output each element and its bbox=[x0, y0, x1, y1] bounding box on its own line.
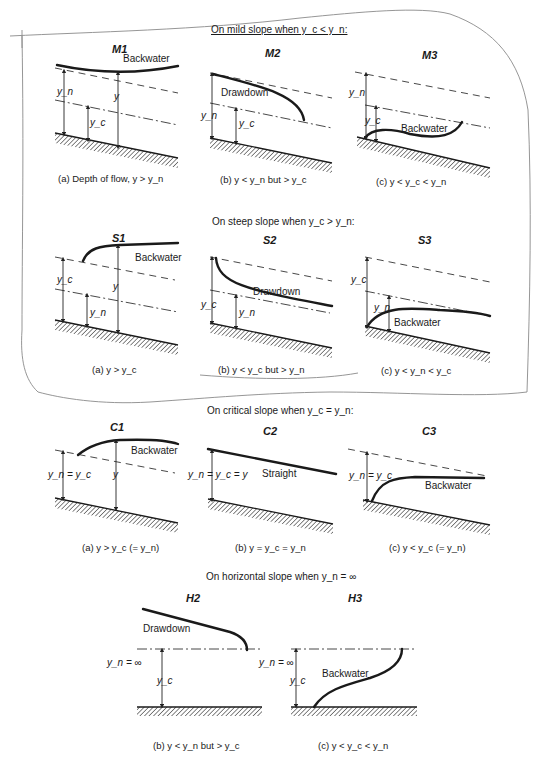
panel-c2 bbox=[208, 449, 336, 534]
depth-c2-yn-yc-y: y_n = y_c = y bbox=[188, 470, 247, 480]
depth-h3-yn-infinity: y_n = ∞ bbox=[259, 658, 294, 668]
depth-c1-y: y bbox=[113, 470, 118, 480]
title-h3: H3 bbox=[348, 593, 362, 604]
panel-h3 bbox=[291, 649, 417, 716]
panel-s2 bbox=[210, 257, 332, 358]
title-s1: S1 bbox=[112, 233, 125, 244]
profile-label-m2: Drawdown bbox=[221, 88, 268, 98]
caption-c1: (a) y > y_c (= y_n) bbox=[82, 543, 159, 553]
title-c3: C3 bbox=[422, 426, 436, 437]
depth-m3-yc: y_c bbox=[365, 116, 381, 126]
caption-h2: (b) y < y_n but > y_c bbox=[153, 741, 240, 751]
depth-h3-yc: y_c bbox=[290, 676, 306, 686]
profile-label-s3: Backwater bbox=[394, 318, 441, 328]
caption-m2: (b) y < y_n but > y_c bbox=[220, 175, 307, 185]
profile-label-h2: Drawdown bbox=[143, 624, 190, 634]
depth-m1-yc: y_c bbox=[90, 118, 106, 128]
profile-label-s1: Backwater bbox=[135, 253, 182, 263]
caption-h3: (c) y < y_c < y_n bbox=[318, 741, 388, 751]
caption-s2: (b) y < y_c but > y_n bbox=[218, 365, 305, 375]
depth-m1-y: y bbox=[114, 92, 119, 102]
caption-c3: (c) y < y_c (= y_n) bbox=[389, 543, 466, 553]
title-m2: M2 bbox=[265, 48, 280, 59]
panel-c3 bbox=[348, 449, 490, 535]
depth-s3-yc: y_c bbox=[351, 275, 367, 285]
horizontal-slope-header: On horizontal slope when y_n = ∞ bbox=[206, 572, 356, 582]
mild-slope-header: On mild slope when y_c < y_n: bbox=[211, 25, 347, 35]
caption-m1: (a) Depth of flow, y > y_n bbox=[58, 174, 163, 184]
depth-c3-yn-yc: y_n = y_c bbox=[349, 471, 392, 481]
title-s3: S3 bbox=[418, 235, 431, 246]
profile-label-c1: Backwater bbox=[131, 446, 178, 456]
depth-s2-yn: y_n bbox=[239, 308, 255, 318]
profile-label-c2: Straight bbox=[262, 469, 296, 479]
steep-slope-header: On steep slope when y_c > y_n: bbox=[212, 217, 355, 227]
depth-h2-yn-infinity: y_n = ∞ bbox=[107, 658, 142, 668]
depth-s2-yc: y_c bbox=[201, 300, 217, 310]
title-h2: H2 bbox=[186, 593, 200, 604]
caption-c2: (b) y = y_c = y_n bbox=[235, 543, 306, 553]
profile-label-s2: Drawdown bbox=[253, 287, 300, 297]
profile-label-c3: Backwater bbox=[425, 481, 472, 491]
title-c1: C1 bbox=[110, 422, 124, 433]
depth-s3-yn: y_n bbox=[374, 303, 390, 313]
caption-m3: (c) y < y_c < y_n bbox=[376, 177, 446, 187]
profile-label-h3: Backwater bbox=[322, 669, 369, 679]
depth-m2-yn: y_n bbox=[201, 111, 217, 121]
title-c2: C2 bbox=[263, 426, 277, 437]
depth-c1-yn-yc: y_n = y_c bbox=[48, 470, 91, 480]
panel-m1 bbox=[55, 65, 178, 168]
caption-s3: (c) y < y_n < y_c bbox=[381, 366, 451, 376]
profile-label-m3: Backwater bbox=[401, 124, 448, 134]
depth-s1-y: y bbox=[113, 282, 118, 292]
profile-label-m1: Backwater bbox=[123, 54, 170, 64]
depth-s1-yn: y_n bbox=[90, 308, 106, 318]
caption-s1: (a) y > y_c bbox=[92, 365, 137, 375]
diagram-canvas bbox=[0, 0, 540, 766]
depth-m2-yc: y_c bbox=[239, 119, 255, 129]
depth-s1-yc: y_c bbox=[57, 275, 73, 285]
critical-slope-header: On critical slope when y_c = y_n: bbox=[207, 406, 353, 416]
depth-m1-yn: y_n bbox=[57, 87, 73, 97]
depth-m3-yn: y_n bbox=[349, 88, 365, 98]
title-m3: M3 bbox=[422, 50, 437, 61]
title-s2: S2 bbox=[263, 235, 276, 246]
depth-h2-yc: y_c bbox=[157, 676, 173, 686]
